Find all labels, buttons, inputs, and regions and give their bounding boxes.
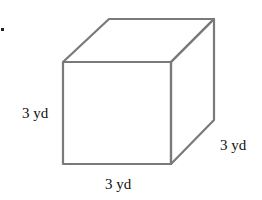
cube-front-face <box>63 62 171 164</box>
cube-diagram <box>0 0 262 200</box>
height-label: 3 yd <box>22 105 48 122</box>
depth-label: 3 yd <box>220 137 246 154</box>
cube-right-face <box>171 19 214 164</box>
bullet-dot <box>1 28 4 31</box>
width-label: 3 yd <box>105 176 131 193</box>
